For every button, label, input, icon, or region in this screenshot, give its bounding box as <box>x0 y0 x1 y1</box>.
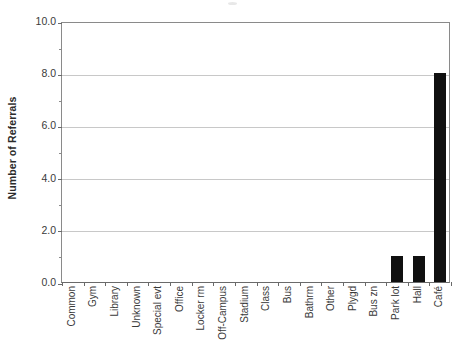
x-axis-tick-label: Bus zn <box>369 286 379 317</box>
bar-chart: Number of Referrals 0.02.04.06.08.010.0 … <box>0 0 464 362</box>
x-axis-label-slot: Office <box>169 284 191 362</box>
y-axis-tick <box>58 75 62 76</box>
x-axis-label-slot: Bathrm <box>299 284 321 362</box>
gridline <box>62 231 449 232</box>
x-axis-label-slot: Hall <box>407 284 429 362</box>
x-axis-tick-label: Hall <box>413 286 423 303</box>
x-axis-label-slot: Café <box>428 284 450 362</box>
x-axis-tick-label: Park lot <box>391 286 401 320</box>
x-axis-tick-label: Library <box>110 286 120 317</box>
y-axis-tick-label: 6.0 <box>22 120 56 130</box>
x-axis-tick-label: Office <box>175 286 185 312</box>
y-axis-tick-label: 2.0 <box>22 225 56 235</box>
bar <box>434 73 446 282</box>
y-axis-tick-label: 8.0 <box>22 68 56 78</box>
y-axis-tick-label: 10.0 <box>22 16 56 26</box>
x-axis-tick-label: Class <box>261 286 271 311</box>
x-axis-tick-label: Other <box>326 286 336 311</box>
x-axis-label-slot: Common <box>61 284 83 362</box>
bar <box>391 256 403 282</box>
x-axis-tick-label: Plygd <box>348 286 358 311</box>
x-axis-label-slot: Unknown <box>126 284 148 362</box>
scan-artifact <box>228 2 237 5</box>
x-axis-tick-label: Unknown <box>132 286 142 328</box>
x-axis-label-slot: Bus zn <box>364 284 386 362</box>
x-axis-label-slot: Gym <box>83 284 105 362</box>
x-axis-tick-label: Stadium <box>240 286 250 323</box>
y-axis-minor-tick <box>59 49 62 50</box>
y-axis-tick <box>58 23 62 24</box>
x-axis-label-slot: Library <box>104 284 126 362</box>
y-axis-tick-label: 0.0 <box>22 277 56 287</box>
x-axis-label-slot: Stadium <box>234 284 256 362</box>
x-axis-tick-label: Off-Campus <box>218 286 228 340</box>
x-axis-label-slot: Bus <box>277 284 299 362</box>
gridline <box>62 127 449 128</box>
x-axis-label-slot: Off-Campus <box>212 284 234 362</box>
x-axis-tick-label: Locker rm <box>196 286 206 330</box>
x-axis-label-slot: Locker rm <box>191 284 213 362</box>
x-axis-tick-label: Bus <box>283 286 293 303</box>
y-axis-tick <box>58 127 62 128</box>
x-axis-label-slot: Special evt <box>147 284 169 362</box>
y-axis-tick-labels: 0.02.04.06.08.010.0 <box>18 0 56 362</box>
bar <box>413 256 425 282</box>
y-axis-tick-label: 4.0 <box>22 173 56 183</box>
y-axis-minor-tick <box>59 257 62 258</box>
gridline <box>62 179 449 180</box>
gridline <box>62 75 449 76</box>
x-axis-label-slot: Other <box>320 284 342 362</box>
y-axis-minor-tick <box>59 205 62 206</box>
x-axis-tick <box>451 282 452 286</box>
y-axis-tick <box>58 179 62 180</box>
y-axis-minor-tick <box>59 101 62 102</box>
plot-area <box>61 22 450 283</box>
x-axis-tick-labels: CommonGymLibraryUnknownSpecial evtOffice… <box>61 284 450 362</box>
x-axis-tick-label: Bathrm <box>305 286 315 318</box>
y-axis-tick <box>58 231 62 232</box>
x-axis-label-slot: Class <box>256 284 278 362</box>
x-axis-tick-label: Café <box>434 286 444 307</box>
x-axis-tick-label: Common <box>67 286 77 327</box>
x-axis-label-slot: Plygd <box>342 284 364 362</box>
x-axis-tick-label: Gym <box>88 286 98 307</box>
x-axis-label-slot: Park lot <box>385 284 407 362</box>
y-axis-minor-tick <box>59 153 62 154</box>
x-axis-tick-label: Special evt <box>153 286 163 335</box>
